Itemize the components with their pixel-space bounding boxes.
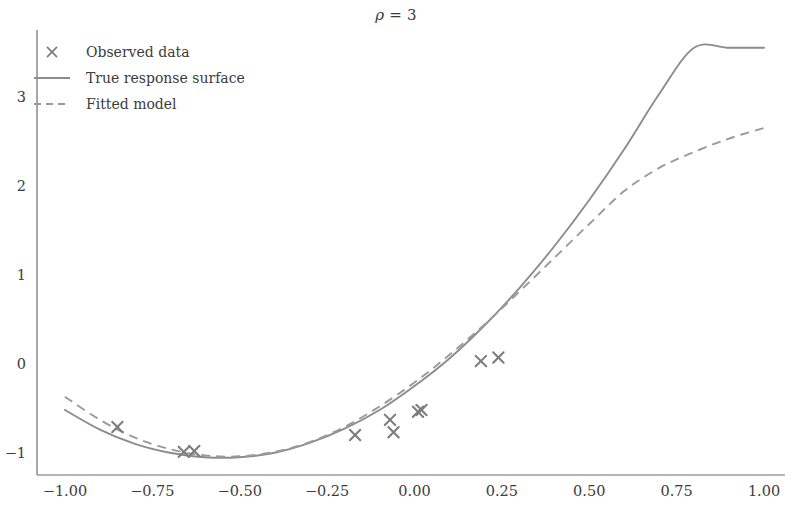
data-point-marker xyxy=(112,422,122,432)
x-tick-label: 1.00 xyxy=(748,483,780,499)
y-axis-tick-labels: −10123 xyxy=(5,89,26,461)
data-point-marker xyxy=(388,427,398,437)
y-tick-label: 0 xyxy=(17,356,26,372)
x-tick-label: 0.50 xyxy=(573,483,605,499)
x-tick-label: −0.25 xyxy=(305,483,349,499)
x-axis-tick-labels: −1.00−0.75−0.50−0.250.000.250.500.751.00 xyxy=(43,483,780,499)
figure: ρ = 3 −1.00−0.75−0.50−0.250.000.250.500.… xyxy=(0,0,792,507)
plot-canvas: −1.00−0.75−0.50−0.250.000.250.500.751.00… xyxy=(0,0,792,507)
x-tick-label: 0.00 xyxy=(398,483,430,499)
x-tick-label: 0.75 xyxy=(660,483,692,499)
x-tick-label: 0.25 xyxy=(486,483,518,499)
y-tick-label: −1 xyxy=(5,445,26,461)
legend-entry-label: True response surface xyxy=(86,70,245,86)
data-point-marker xyxy=(385,415,395,425)
data-point-marker xyxy=(350,430,360,440)
data-point-marker xyxy=(476,356,486,366)
x-tick-label: −0.75 xyxy=(130,483,174,499)
y-tick-label: 3 xyxy=(17,89,26,105)
legend-entry-label: Fitted model xyxy=(86,96,177,112)
y-tick-label: 1 xyxy=(17,267,26,283)
y-tick-label: 2 xyxy=(17,178,26,194)
legend-entry-label: Observed data xyxy=(86,44,190,60)
x-tick-label: −0.50 xyxy=(218,483,262,499)
data-point-marker xyxy=(493,352,503,362)
data-point-marker xyxy=(413,407,423,417)
x-tick-label: −1.00 xyxy=(43,483,87,499)
chart-legend: Observed dataTrue response surfaceFitted… xyxy=(34,44,245,112)
data-points xyxy=(112,352,503,457)
data-point-marker xyxy=(416,405,426,415)
